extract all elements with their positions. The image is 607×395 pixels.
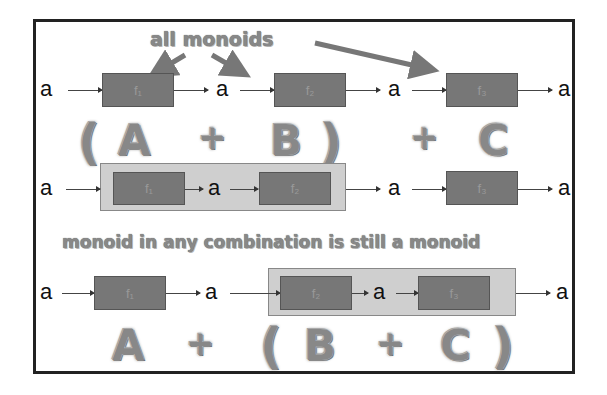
label-a: a — [388, 177, 400, 199]
arrow-icon — [66, 189, 100, 190]
box-f3: f₃ — [446, 171, 518, 205]
arrow-icon — [352, 293, 368, 294]
plus: + — [376, 326, 405, 360]
label-a: a — [40, 177, 52, 199]
label-a: a — [558, 177, 570, 199]
plus: + — [198, 120, 227, 154]
letter-b: B — [270, 120, 302, 162]
arrow-icon — [396, 293, 418, 294]
label-a: a — [208, 177, 220, 199]
arrow-icon — [518, 189, 552, 190]
arrow-icon — [174, 90, 208, 91]
paren-open: ( — [78, 118, 100, 166]
letter-c: C — [440, 325, 471, 367]
label-a: a — [558, 78, 570, 100]
arrow-icon — [62, 293, 94, 294]
paren-close: ) — [320, 118, 342, 166]
arrow-icon — [230, 189, 258, 190]
arrow-icon — [68, 90, 102, 91]
caption-combination: monoid in any combination is still a mon… — [62, 234, 480, 251]
letter-b: B — [304, 325, 336, 367]
arrow-icon — [230, 293, 280, 294]
arrow-icon — [346, 189, 380, 190]
arrow-icon — [185, 189, 203, 190]
box-f1: f₁ — [113, 172, 185, 205]
box-f2: f₂ — [259, 172, 331, 205]
paren-open: ( — [260, 322, 282, 370]
box-f2: f₂ — [280, 276, 352, 310]
letter-a: A — [112, 325, 145, 367]
label-a: a — [556, 281, 568, 303]
label-a: a — [40, 78, 52, 100]
box-f3: f₃ — [446, 73, 518, 107]
box-f3: f₃ — [418, 276, 490, 310]
label-a: a — [373, 281, 385, 303]
arrow-icon — [346, 90, 380, 91]
letter-c: C — [478, 120, 509, 162]
label-a: a — [205, 281, 217, 303]
arrow-icon — [240, 90, 274, 91]
label-a: a — [40, 281, 52, 303]
plus: + — [410, 120, 439, 154]
box-f2: f₂ — [274, 73, 346, 107]
arrow-icon — [518, 90, 552, 91]
box-f1: f₁ — [102, 73, 174, 107]
plus: + — [186, 326, 215, 360]
arrow-icon — [412, 90, 446, 91]
label-a: a — [388, 78, 400, 100]
arrow-icon — [516, 293, 550, 294]
arrow-icon — [166, 293, 200, 294]
label-a: a — [216, 78, 228, 100]
letter-a: A — [118, 120, 151, 162]
paren-close: ) — [492, 322, 514, 370]
box-f1: f₁ — [94, 276, 166, 310]
arrow-icon — [412, 189, 446, 190]
